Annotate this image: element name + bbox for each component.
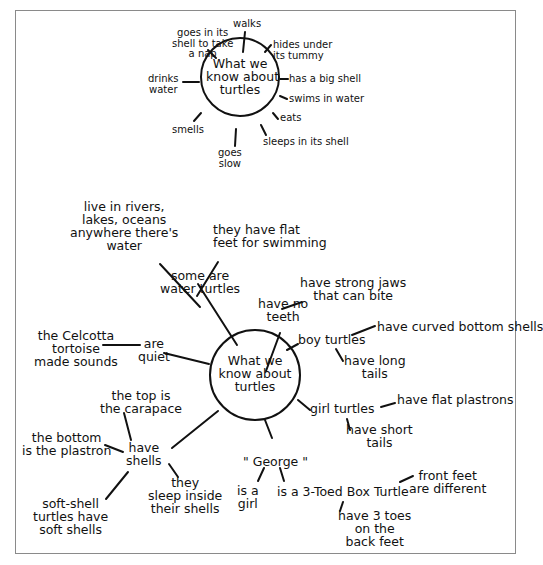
- branch-nap: goes in its shell to take a nap: [172, 28, 233, 60]
- flat-feet-note: they have flat feet for swimming: [213, 223, 327, 249]
- celcotta-note: the Celcotta tortoise made sounds: [34, 329, 118, 368]
- girl-turtles-label: girl turtles: [310, 402, 375, 415]
- george-label: " George ": [243, 455, 308, 468]
- carapace-note: the top is the carapace: [100, 389, 182, 415]
- quiet-label: are quiet: [138, 337, 170, 363]
- branch-eats: eats: [280, 113, 301, 124]
- sleep-inside-note: they sleep inside their shells: [148, 476, 222, 515]
- branch-drinks: drinks water: [148, 74, 179, 95]
- branch-big-shell: has a big shell: [289, 74, 361, 85]
- branch-hides: hides under its tummy: [273, 40, 332, 61]
- shells-label: have shells: [126, 441, 162, 467]
- branch-swims: swims in water: [289, 94, 364, 105]
- center-label-2: What we know about turtles: [212, 354, 298, 393]
- branch-sleeps: sleeps in its shell: [263, 137, 349, 148]
- water-turtles-label: some are water turtles: [160, 269, 240, 295]
- branch-walks: walks: [233, 19, 261, 30]
- boy-turtles-label: boy turtles: [298, 333, 366, 346]
- long-tails-note: have long tails: [344, 354, 406, 380]
- three-toes-note: have 3 toes on the back feet: [338, 509, 411, 548]
- strong-jaws-note: have strong jaws that can bite: [300, 276, 406, 302]
- habitat-note: live in rivers, lakes, oceans anywhere t…: [70, 200, 178, 253]
- branch-slow: goes slow: [218, 148, 242, 169]
- soft-shell-note: soft-shell turtles have soft shells: [33, 497, 108, 536]
- center-label-1: What we know about turtles: [206, 57, 274, 96]
- branch-smells: smells: [172, 125, 204, 136]
- box-turtle-note: is a 3-Toed Box Turtle: [277, 485, 409, 498]
- plastron-note: the bottom is the plastron: [22, 431, 111, 457]
- curved-shells-note: have curved bottom shells: [377, 320, 543, 333]
- front-feet-note: front feet are different: [409, 469, 486, 495]
- flat-plastrons-note: have flat plastrons: [397, 393, 513, 406]
- short-tails-note: have short tails: [346, 423, 413, 449]
- is-a-girl-note: is a girl: [237, 484, 259, 510]
